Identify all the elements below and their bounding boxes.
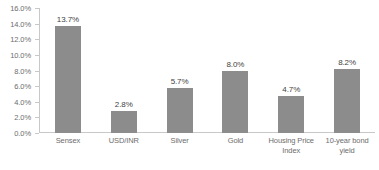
bar[interactable] [278, 96, 304, 133]
y-tick-mark [35, 117, 39, 118]
bar[interactable] [55, 26, 81, 133]
y-tick-label: 16.0% [10, 4, 31, 13]
y-tick-label: 0.0% [14, 129, 31, 138]
y-tick-mark [35, 39, 39, 40]
bar-slot: 5.7% [152, 8, 208, 133]
y-tick-label: 12.0% [10, 35, 31, 44]
bar[interactable] [334, 69, 360, 133]
bar-value-label: 4.7% [282, 85, 300, 94]
x-axis-category-label-line: Gold [208, 136, 264, 146]
y-tick-label: 14.0% [10, 19, 31, 28]
x-axis-category-label: Silver [152, 136, 208, 146]
x-axis-labels: SensexUSD/INRSilverGoldHousing PriceInde… [40, 136, 375, 170]
bar-value-label: 2.8% [115, 100, 133, 109]
bar[interactable] [167, 88, 193, 133]
bar-slot: 2.8% [96, 8, 152, 133]
bar-slot: 4.7% [263, 8, 319, 133]
bar[interactable] [111, 111, 137, 133]
y-tick-label: 6.0% [14, 82, 31, 91]
x-axis-category-label-line: 10-year bond [319, 136, 375, 146]
y-tick-label: 8.0% [14, 66, 31, 75]
y-tick-mark [35, 55, 39, 56]
x-axis-category-label: Housing PriceIndex [263, 136, 319, 156]
bar-chart: 0.0%2.0%4.0%6.0%8.0%10.0%12.0%14.0%16.0%… [0, 0, 379, 170]
plot-area: 13.7%2.8%5.7%8.0%4.7%8.2% [40, 8, 375, 133]
y-tick-label: 2.0% [14, 113, 31, 122]
bar-value-label: 13.7% [57, 15, 79, 24]
bar-value-label: 8.0% [226, 60, 244, 69]
x-axis-category-label: 10-year bondyield [319, 136, 375, 156]
y-tick-mark [35, 24, 39, 25]
bar-value-label: 8.2% [338, 58, 356, 67]
y-tick-mark [35, 133, 39, 134]
y-tick-mark [35, 102, 39, 103]
x-axis-category-label-line: Index [263, 146, 319, 156]
y-tick-mark [35, 71, 39, 72]
x-axis-category-label-line: USD/INR [96, 136, 152, 146]
x-axis-category-label: USD/INR [96, 136, 152, 146]
x-axis-category-label-line: Housing Price [263, 136, 319, 146]
x-axis-category-label-line: Silver [152, 136, 208, 146]
x-axis-category-label-line: Sensex [40, 136, 96, 146]
bar-slot: 13.7% [40, 8, 96, 133]
y-tick-mark [35, 8, 39, 9]
y-tick-label: 10.0% [10, 50, 31, 59]
y-tick-mark [35, 86, 39, 87]
bar-value-label: 5.7% [171, 77, 189, 86]
y-tick-label: 4.0% [14, 97, 31, 106]
x-axis-category-label: Gold [208, 136, 264, 146]
y-axis: 0.0%2.0%4.0%6.0%8.0%10.0%12.0%14.0%16.0% [0, 0, 40, 140]
bar-slot: 8.0% [208, 8, 264, 133]
x-axis-category-label: Sensex [40, 136, 96, 146]
x-axis-category-label-line: yield [319, 146, 375, 156]
bar[interactable] [222, 71, 248, 134]
bar-slot: 8.2% [319, 8, 375, 133]
